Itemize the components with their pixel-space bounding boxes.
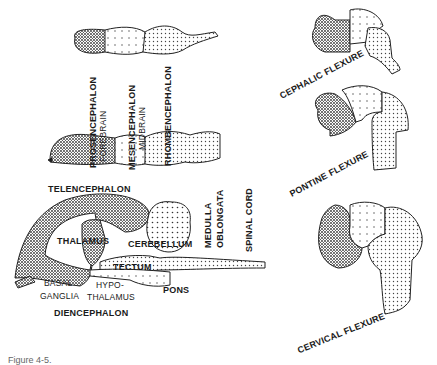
cephalic-flexure-diagram: [312, 9, 400, 74]
hypothalamus-label: THALAMUS: [87, 292, 135, 302]
rhombencephalon-label: RHOMBENCEPHALON: [163, 66, 173, 166]
thalamus-label: THALAMUS: [57, 236, 109, 246]
diencephalon-label: DIENCEPHALON: [54, 308, 128, 318]
figure-caption: Figure 4-5.: [8, 355, 52, 365]
hypo-label: HYPO-: [96, 280, 124, 290]
forebrain-label: FOREBRAIN: [98, 111, 108, 162]
ganglia-label: GANGLIA: [40, 291, 79, 301]
medulla-label: MEDULLA: [203, 203, 213, 248]
tectum-label: TECTUM: [113, 262, 152, 272]
spinal-cord-label: SPINAL CORD: [244, 188, 254, 252]
cervical-flexure-diagram: [319, 202, 423, 314]
telencephalon-label: TELENCEPHALON: [48, 184, 131, 194]
cerebellum-label: CEREBELLUM: [128, 239, 193, 249]
three-vesicle-tube: [75, 26, 218, 54]
pons-label: PONS: [163, 285, 189, 295]
oblongata-label: OBLONGATA: [215, 190, 225, 248]
basal-label: BASAL: [44, 278, 72, 288]
prosencephalon-label: PROSENCEPHALON: [88, 77, 98, 168]
midbrain-label: MIDBRAIN: [137, 107, 147, 150]
mesencephalon-label: MESENCEPHALON: [127, 85, 137, 170]
